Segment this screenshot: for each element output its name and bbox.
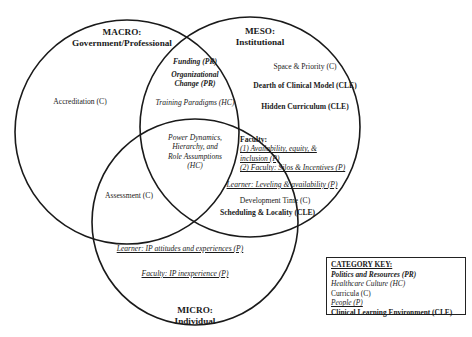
micro-subtitle: Individual bbox=[160, 316, 230, 327]
label-power-line2: Hierarchy, and bbox=[150, 142, 240, 151]
category-key: CATEGORY KEY: Politics and Resources (PR… bbox=[326, 257, 466, 315]
macro-circle bbox=[15, 20, 239, 244]
label-power-line3: Role Assumptions bbox=[150, 152, 240, 161]
meso-title-line: MESO: bbox=[220, 26, 300, 37]
key-curricula: Curricula (C) bbox=[331, 289, 461, 299]
label-accreditation: Accreditation (C) bbox=[40, 97, 120, 106]
label-faculty-block: Faculty: (1) Availability, equity, & inc… bbox=[240, 135, 345, 173]
label-learner-ip: Learner: IP attitudes and experiences (P… bbox=[105, 244, 255, 253]
label-space-priority: Space & Priority (C) bbox=[255, 62, 355, 71]
label-faculty-availability: (1) Availability, equity, & bbox=[240, 144, 345, 153]
label-hidden-curriculum: Hidden Curriculum (CLE) bbox=[255, 102, 355, 111]
label-assessment: Assessment (C) bbox=[94, 191, 164, 200]
label-learner-leveling: Learner: Leveling & availability (P) bbox=[222, 180, 342, 189]
meso-title: MESO: Institutional bbox=[220, 26, 300, 48]
label-faculty-silos: (2) Faculty: Silos & Incentives (P) bbox=[240, 163, 345, 172]
label-org-change-line1: Organizational bbox=[155, 70, 235, 79]
label-development-time: Development Time (C) bbox=[225, 196, 325, 205]
label-scheduling-locality: Scheduling & Locality (CLE) bbox=[210, 208, 325, 217]
label-training-paradigms: Training Paradigms (HC) bbox=[145, 98, 245, 107]
key-clinical-learning-environment: Clinical Learning Environment (CLE) bbox=[331, 308, 461, 318]
label-org-change: Organizational Change (PR) bbox=[155, 70, 235, 89]
label-faculty-inclusion: inclusion (P) bbox=[240, 154, 345, 163]
key-healthcare-culture: Healthcare Culture (HC) bbox=[331, 279, 461, 289]
micro-title-line: MICRO: bbox=[160, 305, 230, 316]
macro-title-line: MACRO: bbox=[72, 27, 172, 38]
meso-subtitle: Institutional bbox=[220, 37, 300, 48]
label-power-line4: (HC) bbox=[150, 161, 240, 170]
label-faculty-head: Faculty: bbox=[240, 135, 345, 144]
macro-subtitle: Government/Professional bbox=[72, 38, 172, 49]
macro-title: MACRO: Government/Professional bbox=[72, 27, 172, 49]
key-politics-resources: Politics and Resources (PR) bbox=[331, 270, 461, 280]
key-heading: CATEGORY KEY: bbox=[331, 260, 461, 270]
micro-title: MICRO: Individual bbox=[160, 305, 230, 327]
key-people: People (P) bbox=[331, 298, 461, 308]
label-dearth-clinical-model: Dearth of Clinical Model (CLE) bbox=[245, 81, 365, 90]
label-power-line1: Power Dynamics, bbox=[150, 133, 240, 142]
label-funding: Funding (PR) bbox=[155, 57, 235, 66]
label-org-change-line2: Change (PR) bbox=[155, 79, 235, 88]
label-power-dynamics: Power Dynamics, Hierarchy, and Role Assu… bbox=[150, 133, 240, 171]
label-faculty-ip: Faculty: IP inexperience (P) bbox=[130, 269, 240, 278]
